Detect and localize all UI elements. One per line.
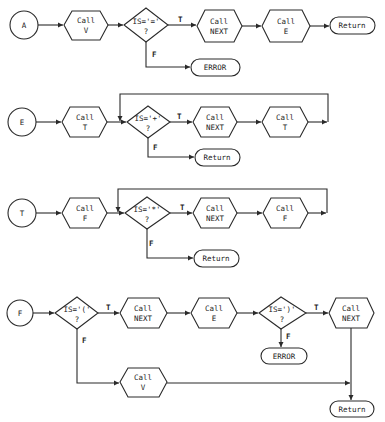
- svg-text:ERROR: ERROR: [273, 352, 296, 361]
- svg-text:Call: Call: [134, 304, 152, 313]
- svg-text:?: ?: [146, 124, 151, 133]
- decision-f-lparen: IS='(' ?: [55, 297, 98, 329]
- terminal-t-return: Return: [194, 250, 239, 267]
- svg-text:Call: Call: [342, 304, 360, 313]
- node-e-call-t2: Call T: [262, 107, 308, 137]
- node-f-call-next2: Call NEXT: [329, 298, 374, 328]
- edge-label-true: T: [178, 15, 183, 24]
- svg-text:ERROR: ERROR: [204, 63, 227, 72]
- svg-text:Call: Call: [276, 113, 294, 122]
- svg-text:IS='(': IS='(': [63, 305, 90, 314]
- flowchart-canvas: A Call V IS='=' ? T Call NEXT Call E: [0, 0, 385, 422]
- svg-text:T: T: [314, 303, 319, 312]
- svg-text:T: T: [83, 123, 88, 132]
- node-e-call-next: Call NEXT: [193, 107, 237, 137]
- svg-text:F: F: [149, 239, 154, 248]
- node-t-call-f2: Call F: [263, 198, 308, 228]
- svg-text:NEXT: NEXT: [206, 214, 225, 223]
- svg-text:F: F: [82, 336, 87, 345]
- svg-text:V: V: [84, 26, 89, 35]
- svg-text:IS='=': IS='=': [132, 17, 159, 26]
- svg-text:F: F: [283, 214, 288, 223]
- node-a-call-next: Call NEXT: [197, 10, 242, 42]
- svg-text:T: T: [283, 123, 288, 132]
- svg-text:F: F: [286, 332, 291, 341]
- svg-text:Call: Call: [134, 373, 152, 382]
- decision-f-rparen: IS=')' ?: [259, 297, 306, 329]
- svg-text:T: T: [180, 203, 185, 212]
- procedure-t: T Call F IS='*' ? T Call NEXT Call F: [8, 189, 327, 267]
- svg-text:V: V: [141, 383, 146, 392]
- svg-text:IS='*': IS='*': [133, 205, 160, 214]
- terminal-f-error: ERROR: [261, 348, 307, 364]
- entry-label-f: F: [18, 309, 23, 318]
- node-f-call-e: Call E: [191, 298, 237, 328]
- svg-text:Call: Call: [76, 113, 94, 122]
- svg-text:NEXT: NEXT: [342, 314, 361, 323]
- svg-text:Call: Call: [277, 17, 295, 26]
- entry-label-a: A: [22, 21, 27, 30]
- node-a-call-v: Call V: [64, 11, 108, 40]
- svg-text:?: ?: [280, 315, 285, 324]
- svg-text:Call: Call: [77, 16, 95, 25]
- node-a-call-e: Call E: [262, 10, 310, 42]
- node-f-call-next: Call NEXT: [120, 298, 167, 328]
- svg-text:Call: Call: [206, 204, 224, 213]
- node-t-call-next: Call NEXT: [193, 198, 237, 228]
- node-f-call-v: Call V: [120, 368, 167, 397]
- svg-text:Call: Call: [276, 204, 294, 213]
- svg-text:Call: Call: [206, 113, 224, 122]
- svg-text:F: F: [83, 214, 88, 223]
- svg-text:Return: Return: [338, 21, 365, 30]
- svg-text:NEXT: NEXT: [210, 27, 229, 36]
- terminal-a-error: ERROR: [191, 59, 240, 76]
- svg-text:Return: Return: [203, 153, 230, 162]
- svg-text:Call: Call: [76, 204, 94, 213]
- node-e-call-t: Call T: [62, 107, 107, 137]
- svg-text:IS=')': IS=')': [268, 305, 295, 314]
- svg-text:Return: Return: [202, 254, 229, 263]
- svg-text:Call: Call: [210, 17, 228, 26]
- svg-text:T: T: [106, 303, 111, 312]
- svg-text:?: ?: [145, 215, 150, 224]
- terminal-f-return: Return: [330, 401, 374, 417]
- svg-text:Call: Call: [205, 304, 223, 313]
- procedure-e: E Call T IS='+' ? T Call NEXT Call T: [8, 94, 328, 166]
- svg-text:?: ?: [144, 27, 149, 36]
- entry-label-t: T: [20, 209, 25, 218]
- decision-a-equals: IS='=' ?: [124, 8, 168, 42]
- edge-label-false: F: [152, 50, 157, 59]
- svg-text:Return: Return: [338, 405, 365, 414]
- procedure-f: F IS='(' ? T Call NEXT Call E IS=')' ? T: [7, 297, 374, 417]
- entry-label-e: E: [20, 118, 25, 127]
- terminal-a-return: Return: [330, 17, 375, 34]
- svg-text:?: ?: [75, 315, 80, 324]
- svg-text:E: E: [284, 27, 289, 36]
- decision-t-star: IS='*' ?: [125, 197, 170, 229]
- terminal-e-return: Return: [195, 149, 240, 166]
- svg-text:E: E: [212, 314, 217, 323]
- svg-text:F: F: [153, 143, 158, 152]
- svg-text:IS='+': IS='+': [134, 114, 161, 123]
- procedure-a: A Call V IS='=' ? T Call NEXT Call E: [10, 8, 375, 76]
- svg-text:NEXT: NEXT: [134, 314, 153, 323]
- decision-e-plus: IS='+' ?: [127, 106, 170, 138]
- svg-text:T: T: [177, 112, 182, 121]
- svg-text:NEXT: NEXT: [206, 123, 225, 132]
- node-t-call-f: Call F: [62, 198, 107, 228]
